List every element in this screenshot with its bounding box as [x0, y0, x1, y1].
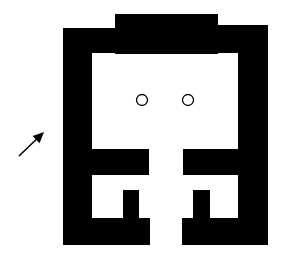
right-cross-wall	[183, 149, 239, 175]
floor-plan	[0, 0, 282, 259]
walls-group	[63, 14, 268, 245]
left-outer-wall	[63, 28, 92, 245]
columns-group	[137, 95, 194, 106]
right-outer-wall	[238, 25, 268, 245]
bottom-left-wall	[63, 218, 150, 245]
right-stub-wall	[193, 190, 210, 220]
column-right	[183, 95, 194, 106]
arrow-icon	[19, 132, 44, 156]
bottom-right-wall	[182, 218, 268, 245]
left-stub-wall	[123, 190, 139, 220]
left-cross-wall	[91, 149, 149, 175]
arrow-shaft	[19, 138, 38, 156]
column-left	[137, 95, 148, 106]
